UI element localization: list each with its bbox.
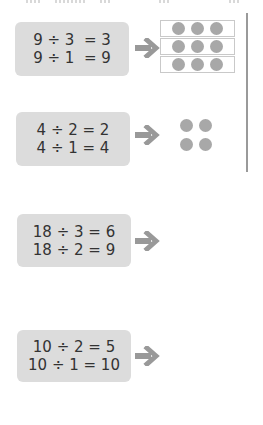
dot-row (160, 38, 235, 55)
equation-box-4: 10 ÷ 2 = 5 10 ÷ 1 = 10 (17, 330, 131, 382)
equation-line: 9 ÷ 3 = 3 (33, 31, 111, 49)
right-arrow-icon (135, 38, 161, 58)
equation-line: 10 ÷ 2 = 5 (33, 338, 115, 356)
equation-box-1: 9 ÷ 3 = 3 9 ÷ 1 = 9 (15, 22, 129, 76)
dot (191, 22, 204, 35)
equation-line: 18 ÷ 2 = 9 (33, 241, 115, 259)
right-arrow-icon (135, 231, 161, 251)
dot (210, 58, 223, 71)
dot (199, 119, 212, 132)
equation-line: 4 ÷ 1 = 4 (37, 139, 110, 157)
dot (191, 40, 204, 53)
dot (191, 58, 204, 71)
dot-square-illustration (180, 119, 214, 153)
vertical-divider (246, 13, 248, 172)
dot (172, 22, 185, 35)
equation-line: 18 ÷ 3 = 6 (33, 223, 115, 241)
right-arrow-icon (135, 346, 161, 366)
equation-line: 4 ÷ 2 = 2 (37, 121, 110, 139)
dot-rows-illustration (160, 20, 235, 76)
dot (172, 58, 185, 71)
dot (210, 22, 223, 35)
equation-box-3: 18 ÷ 3 = 6 18 ÷ 2 = 9 (17, 214, 131, 267)
dot-row (160, 20, 235, 37)
equation-box-2: 4 ÷ 2 = 2 4 ÷ 1 = 4 (16, 112, 130, 166)
dot (210, 40, 223, 53)
right-arrow-icon (135, 125, 161, 145)
dot (199, 138, 212, 151)
dot-row (160, 56, 235, 73)
equation-line: 9 ÷ 1 = 9 (33, 49, 111, 67)
equation-line: 10 ÷ 1 = 10 (28, 356, 120, 374)
dot (172, 40, 185, 53)
dot (180, 119, 193, 132)
clipped-header-text (22, 0, 239, 5)
dot (180, 138, 193, 151)
